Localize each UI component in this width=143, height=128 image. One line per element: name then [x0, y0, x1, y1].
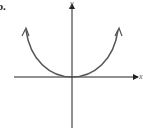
x-axis-label: x [139, 73, 143, 81]
y-axis-label: y [70, 0, 74, 8]
function-graph [0, 0, 143, 128]
